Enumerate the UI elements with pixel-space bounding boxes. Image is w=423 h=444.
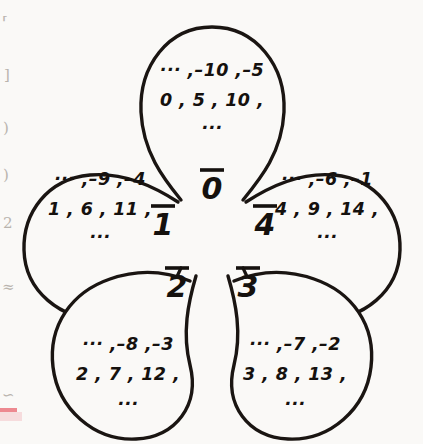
pink-margin-mark [0,412,22,421]
margin-fragment-2: ] [4,66,10,84]
class-label-2-digit: 2 [167,269,188,304]
class-label-1: 1 [151,206,175,242]
petal-right-line-2: 4 , 9 , 14 , [274,199,379,219]
margin-fragment-6: ≈ [2,278,15,296]
margin-artifacts: ⸢ ] ) ) 2 ≈ ∽ [0,13,22,421]
margin-fragment-7: ∽ [2,386,15,404]
petal-top-line-3: ··· [201,118,222,138]
class-label-2: 2 [165,268,189,304]
petal-top-line-1: ··· ,–10 ,–5 [160,60,264,80]
margin-fragment-1: ⸢ [2,13,8,31]
petal-left-line-3: ··· [89,227,110,247]
petal-top-line-2: 0 , 5 , 10 , [160,90,264,110]
class-label-3-digit: 3 [238,269,259,304]
class-label-0: 0 [200,170,224,206]
class-label-4-digit: 4 [254,207,276,242]
margin-fragment-3: ) [3,119,9,137]
red-margin-mark [0,408,17,412]
petal-bottom-left-line-3: ··· [117,394,138,414]
petal-bottom-right-line-1: ··· ,–7 ,–2 [249,334,341,354]
petal-left-line-2: 1 , 6 , 11 , [48,199,152,219]
margin-fragment-5: 2 [3,214,13,232]
residue-class-flower-diagram: ··· ,–10 ,–5 0 , 5 , 10 , ··· ··· ,–9 ,–… [0,0,423,444]
class-label-3: 3 [236,268,260,304]
margin-fragment-4: ) [3,166,9,184]
petal-bottom-left-line-1: ··· ,–8 ,–3 [82,334,174,354]
petal-left-line-1: ··· ,–9 ,–4 [54,169,146,189]
petal-bottom-left-line-2: 2 , 7 , 12 , [76,364,180,384]
petal-right-line-3: ··· [316,227,337,247]
class-label-1-digit: 1 [153,207,174,242]
class-label-0-digit: 0 [202,171,223,206]
petal-right-line-1: ··· ,–6 ,–1 [281,169,373,189]
class-label-4: 4 [253,206,277,242]
petal-bottom-right-line-2: 3 , 8 , 13 , [243,364,347,384]
petal-bottom-right-line-3: ··· [284,394,305,414]
